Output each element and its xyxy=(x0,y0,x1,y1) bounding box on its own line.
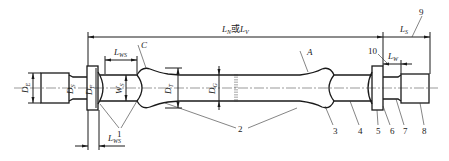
diameter-end-label: DE xyxy=(20,83,31,95)
diameter-flange-label: DF xyxy=(84,85,95,97)
diameter-transition-label: DT xyxy=(163,84,174,96)
callout-9: 9 xyxy=(419,7,424,17)
right-transition-top xyxy=(300,68,334,75)
callout-4: 4 xyxy=(358,126,363,136)
callout-8: 8 xyxy=(422,126,427,136)
diameter-gauge-label: DG xyxy=(207,83,218,96)
groove-length-label: LW xyxy=(387,51,399,62)
callout-7: 7 xyxy=(403,126,408,136)
detail-a-label: A xyxy=(306,47,313,57)
left-neck-top xyxy=(69,75,87,77)
callout-10: 10 xyxy=(368,46,378,56)
callout-6: 6 xyxy=(390,126,395,136)
callout-2: 2 xyxy=(238,124,243,134)
right-end-cylinder xyxy=(401,74,429,103)
callout-5: 5 xyxy=(376,126,381,136)
right-transition-bottom xyxy=(300,101,334,108)
callout-3: 3 xyxy=(333,126,338,136)
specimen-drawing: LN或LV LS 9 LW 10 LWS LWS DE DS DF WS DT xyxy=(0,0,449,161)
overall-length-label: LN或LV xyxy=(221,23,250,35)
width-section-label: WS xyxy=(114,84,125,95)
left-transition-bottom xyxy=(137,101,180,108)
left-transition-top xyxy=(137,68,180,75)
left-neck-bottom xyxy=(69,99,87,101)
diameter-neck-label: DS xyxy=(65,85,76,96)
detail-c-label: C xyxy=(141,40,148,50)
callout-1: 1 xyxy=(117,129,122,139)
end-length-label: LS xyxy=(399,24,408,35)
grip-length-label: LWS xyxy=(113,47,127,58)
